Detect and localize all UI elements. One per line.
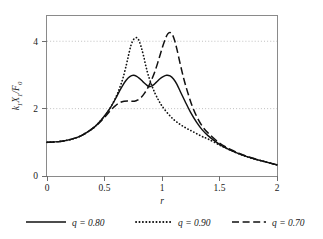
x-tick-label-1: 1 — [160, 183, 165, 193]
chart-figure: 0 2 4 k1X1/F0 0 0.5 1 1.5 2 r — [0, 0, 323, 239]
y-tick-label-2: 2 — [33, 104, 38, 114]
x-axis-title: r — [160, 196, 164, 206]
y-axis: 0 2 4 — [33, 37, 47, 182]
frequency-response-chart: 0 2 4 k1X1/F0 0 0.5 1 1.5 2 r — [0, 0, 323, 239]
legend-label-0: q = 0.80 — [72, 218, 105, 228]
x-tick-label-0: 0 — [45, 183, 50, 193]
y-axis-title: k1X1/F0 — [11, 81, 23, 110]
legend-label-1: q = 0.90 — [178, 218, 211, 228]
x-tick-label-2: 2 — [275, 183, 280, 193]
chart-legend: q = 0.80 q = 0.90 q = 0.70 — [26, 218, 305, 228]
y-tick-label-4: 4 — [33, 37, 38, 47]
x-axis: 0 0.5 1 1.5 2 r — [45, 176, 280, 206]
x-tick-label-0.5: 0.5 — [99, 183, 111, 193]
ylabel-F-sub: 0 — [16, 81, 23, 85]
plot-frame — [47, 16, 278, 177]
x-tick-label-1.5: 1.5 — [214, 183, 226, 193]
legend-label-2: q = 0.70 — [272, 218, 305, 228]
y-tick-label-0: 0 — [33, 171, 38, 181]
svg-text:k1X1/F0: k1X1/F0 — [11, 81, 23, 110]
